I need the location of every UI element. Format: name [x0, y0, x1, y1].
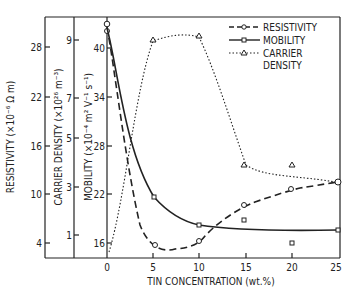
svg-text:10: 10 — [31, 189, 43, 200]
svg-text:16: 16 — [94, 238, 106, 249]
x-axis-label: TIN CONCENTRATION (wt.%) — [146, 276, 274, 287]
mobility-line — [107, 28, 338, 230]
svg-text:7: 7 — [66, 93, 72, 104]
svg-text:RESISTIVITY: RESISTIVITY — [263, 22, 317, 33]
svg-text:22: 22 — [31, 92, 42, 103]
svg-text:28: 28 — [31, 42, 43, 53]
x-ticks: 0 5 10 15 20 25 — [104, 253, 342, 273]
legend: RESISTIVITY MOBILITY CARRIER DENSITY — [229, 22, 317, 71]
carrier-density-axis-label: CARRIER DENSITY (×10²⁶ m⁻³) — [53, 68, 64, 205]
svg-text:10: 10 — [193, 262, 205, 273]
svg-text:0: 0 — [104, 262, 110, 273]
svg-text:1: 1 — [66, 230, 72, 241]
svg-text:3: 3 — [66, 182, 72, 193]
svg-text:40: 40 — [94, 43, 106, 54]
mobility-axis-label: MOBILITY (×10⁻⁴ m² V⁻¹ s⁻¹) — [83, 73, 94, 201]
svg-text:34: 34 — [94, 92, 106, 103]
svg-text:20: 20 — [286, 262, 298, 273]
resistivity-axis-label: RESISTIVITY (×10⁻⁶ Ω m) — [5, 81, 16, 194]
svg-text:28: 28 — [94, 141, 106, 152]
carrier-density-ticks: 9 7 5 3 1 — [66, 35, 79, 241]
svg-text:5: 5 — [66, 133, 72, 144]
svg-text:MOBILITY: MOBILITY — [263, 35, 306, 46]
chart: 28 22 16 10 4 9 7 5 3 1 40 34 28 22 16 R… — [0, 0, 356, 297]
carrier-density-line — [109, 35, 340, 252]
svg-text:5: 5 — [150, 262, 156, 273]
svg-text:4: 4 — [36, 238, 42, 249]
svg-text:9: 9 — [66, 35, 72, 46]
svg-text:25: 25 — [330, 262, 341, 273]
svg-text:22: 22 — [94, 189, 105, 200]
svg-text:DENSITY: DENSITY — [263, 60, 302, 71]
mobility-ticks: 40 34 28 22 16 — [94, 43, 112, 249]
svg-text:15: 15 — [240, 262, 251, 273]
resistivity-ticks: 28 22 16 10 4 — [31, 42, 50, 249]
svg-text:16: 16 — [31, 141, 43, 152]
svg-text:CARRIER: CARRIER — [263, 48, 303, 59]
mobility-markers — [152, 195, 340, 245]
resistivity-line — [107, 27, 338, 250]
resistivity-markers — [104, 21, 341, 247]
